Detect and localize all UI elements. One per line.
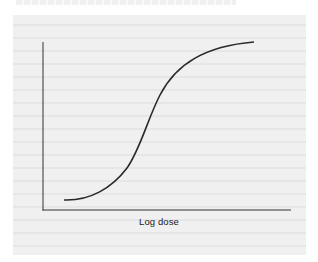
sigmoid-curve — [64, 42, 254, 200]
x-axis-label: Log dose — [0, 216, 318, 227]
